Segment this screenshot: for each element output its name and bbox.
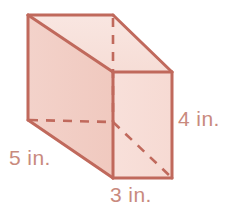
- width-label: 3 in.: [110, 184, 152, 205]
- height-label: 4 in.: [178, 108, 220, 129]
- front-face: [113, 72, 172, 178]
- prism-figure: 5 in. 4 in. 3 in.: [0, 0, 240, 213]
- depth-label: 5 in.: [9, 147, 51, 168]
